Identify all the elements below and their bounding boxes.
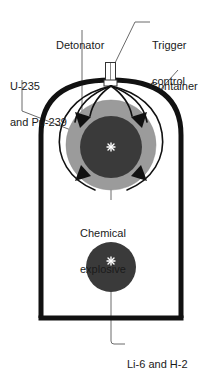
label-detonator-line-1: Detonator bbox=[56, 39, 104, 51]
label-container: Container bbox=[150, 56, 198, 116]
label-chemical-explosive: Chemical explosive bbox=[80, 203, 126, 299]
label-chemical-explosive-line-1: Chemical bbox=[80, 227, 126, 239]
core-spark-icon bbox=[107, 143, 115, 151]
leader-line-trigger-control bbox=[115, 22, 150, 63]
label-fissile-material: U-235 and Pu-239 bbox=[10, 56, 67, 152]
label-trigger-control-line-1: Trigger bbox=[152, 39, 186, 51]
label-container-line-1: Container bbox=[150, 80, 198, 92]
label-fissile-material-line-2: and Pu-239 bbox=[10, 116, 67, 128]
label-fissile-material-line-1: U-235 bbox=[10, 80, 67, 92]
label-chemical-explosive-line-2: explosive bbox=[80, 263, 126, 275]
label-fusion-fuel: Li-6 and H-2 bbox=[127, 334, 188, 372]
label-fusion-fuel-line-1: Li-6 and H-2 bbox=[127, 358, 188, 370]
trigger-control-nozzle bbox=[104, 63, 117, 87]
